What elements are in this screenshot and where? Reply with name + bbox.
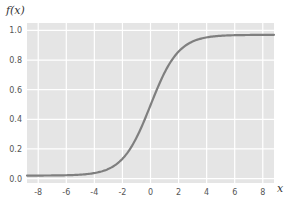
x-tick-label: 6 [232, 188, 237, 197]
x-tick-label: -8 [34, 188, 42, 197]
x-axis-label: x [277, 182, 284, 195]
y-axis-ticks: 0.00.20.40.60.81.0 [9, 26, 22, 183]
x-tick-label: -6 [62, 188, 70, 197]
sigmoid-chart: 0.00.20.40.60.81.0 -8-6-4-202468 f(x) x [0, 0, 288, 207]
y-tick-label: 0.8 [9, 56, 22, 65]
y-axis-label: f(x) [5, 4, 25, 17]
x-tick-label: -2 [118, 188, 126, 197]
y-tick-label: 0.2 [9, 145, 22, 154]
x-tick-label: 8 [260, 188, 265, 197]
x-tick-label: -4 [90, 188, 98, 197]
x-tick-label: 2 [176, 188, 181, 197]
x-tick-label: 0 [148, 188, 153, 197]
y-tick-label: 0.4 [9, 115, 22, 124]
x-axis-ticks: -8-6-4-202468 [34, 188, 265, 197]
y-tick-label: 0.0 [9, 175, 22, 184]
x-tick-label: 4 [204, 188, 209, 197]
y-tick-label: 1.0 [9, 26, 22, 35]
y-tick-label: 0.6 [9, 86, 22, 95]
